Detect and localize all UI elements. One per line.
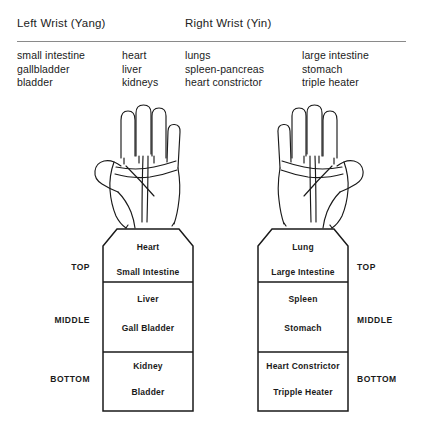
organ-item: liver: [122, 63, 158, 77]
organ-list-left-column-2: heart liver kidneys: [122, 49, 158, 90]
right-bottom-upper-label: Heart Constrictor: [257, 361, 349, 371]
left-position-label-middle: MIDDLE: [54, 315, 90, 325]
right-middle-lower-label: Stomach: [257, 323, 349, 333]
left-wrist-pulse-chart: Heart Small Intestine Liver Gall Bladder…: [102, 228, 194, 412]
right-bottom-lower-label: Tripple Heater: [257, 387, 349, 397]
left-bottom-lower-label: Bladder: [102, 387, 194, 397]
right-wrist-pulse-chart: Lung Large Intestine Spleen Stomach Hear…: [257, 228, 349, 412]
left-top-lower-label: Small Intestine: [102, 267, 194, 277]
right-top-lower-label: Large Intestine: [257, 267, 349, 277]
right-position-label-middle: MIDDLE: [357, 315, 393, 325]
right-hand-illustration: [252, 104, 370, 232]
left-position-label-bottom: BOTTOM: [50, 374, 90, 384]
organ-item: heart constrictor: [185, 76, 264, 90]
left-position-label-gutter: TOP MIDDLE BOTTOM: [40, 0, 90, 421]
left-top-upper-label: Heart: [102, 242, 194, 252]
right-position-label-top: TOP: [357, 262, 376, 272]
left-hand-illustration: [88, 104, 206, 232]
organ-item: heart: [122, 49, 158, 63]
left-middle-upper-label: Liver: [102, 294, 194, 304]
organ-item: lungs: [185, 49, 264, 63]
left-bottom-upper-label: Kidney: [102, 361, 194, 371]
right-top-upper-label: Lung: [257, 242, 349, 252]
right-position-label-bottom: BOTTOM: [357, 374, 397, 384]
organ-list-right-column-1: lungs spleen-pancreas heart constrictor: [185, 49, 264, 90]
left-middle-lower-label: Gall Bladder: [102, 323, 194, 333]
right-middle-upper-label: Spleen: [257, 294, 349, 304]
organ-item: spleen-pancreas: [185, 63, 264, 77]
header-right-wrist: Right Wrist (Yin): [185, 17, 271, 29]
left-position-label-top: TOP: [71, 262, 90, 272]
organ-item: kidneys: [122, 76, 158, 90]
right-position-label-gutter: TOP MIDDLE BOTTOM: [357, 0, 417, 421]
